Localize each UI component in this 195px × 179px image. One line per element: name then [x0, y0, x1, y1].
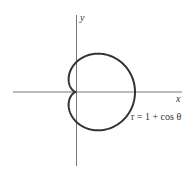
y-axis-label: y [79, 12, 85, 23]
cardioid-diagram: y x r = 1 + cos θ [0, 0, 195, 179]
equation-label: r = 1 + cos θ [131, 111, 181, 122]
x-axis-label: x [175, 93, 181, 104]
